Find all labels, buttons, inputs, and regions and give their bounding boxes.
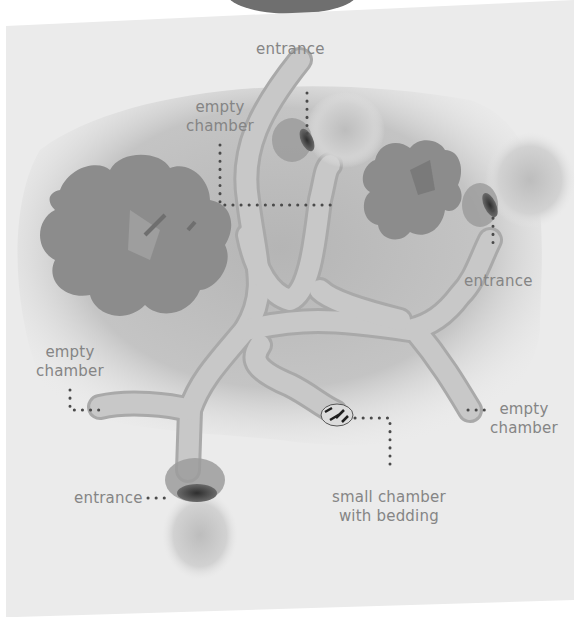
label-text: chamber	[36, 362, 104, 381]
label-text: entrance	[464, 272, 533, 290]
label-text: empty	[36, 343, 104, 362]
label-entrance-bottom: entrance	[74, 489, 143, 508]
label-empty-chamber-left: empty chamber	[36, 343, 104, 381]
label-text: entrance	[256, 40, 325, 58]
label-text: entrance	[74, 489, 143, 507]
diagram-sheet: Small Sett	[0, 0, 584, 617]
label-text: chamber	[490, 419, 558, 438]
label-bedding-chamber: small chamber with bedding	[332, 488, 446, 526]
bedding-icon	[321, 404, 353, 426]
label-text: with bedding	[332, 507, 446, 526]
sett-illustration	[0, 0, 584, 617]
label-text: empty	[490, 400, 558, 419]
label-entrance-top: entrance	[256, 40, 325, 59]
label-entrance-right: entrance	[464, 272, 533, 291]
label-text: small chamber	[332, 488, 446, 507]
label-empty-chamber-right: empty chamber	[490, 400, 558, 438]
label-empty-chamber-top: empty chamber	[186, 98, 254, 136]
label-text: empty	[186, 98, 254, 117]
label-text: chamber	[186, 117, 254, 136]
